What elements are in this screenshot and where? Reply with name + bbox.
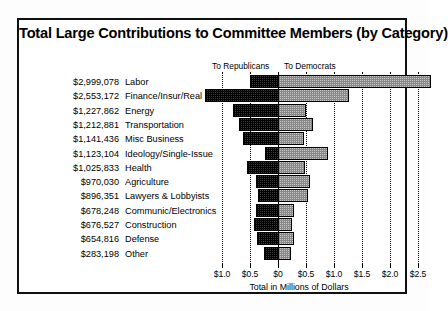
bar-row bbox=[209, 218, 427, 232]
bar-row bbox=[209, 247, 427, 261]
axis-tick bbox=[250, 264, 251, 268]
category-label-row: $1,025,833Health bbox=[19, 161, 209, 175]
category-name: Defense bbox=[125, 232, 159, 246]
bar-row bbox=[209, 118, 427, 132]
bar-segment-democrats bbox=[278, 89, 349, 102]
category-label-row: $654,816Defense bbox=[19, 232, 209, 246]
category-total-amount: $1,227,862 bbox=[41, 104, 119, 118]
category-name: Health bbox=[125, 161, 152, 175]
bar-segment-republicans bbox=[239, 118, 279, 131]
bar-segment-republicans bbox=[265, 147, 279, 160]
category-total-amount: $970,030 bbox=[41, 175, 119, 189]
category-name: Transportation bbox=[125, 118, 184, 132]
bar-segment-democrats bbox=[278, 247, 291, 260]
category-total-amount: $896,351 bbox=[41, 189, 119, 203]
bar-segment-republicans bbox=[258, 189, 279, 202]
legend-label-democrats: To Democrats bbox=[284, 61, 336, 71]
category-label-row: $2,553,172Finance/Insur/Real Est bbox=[19, 89, 209, 103]
category-label-row: $896,351Lawyers & Lobbyists bbox=[19, 189, 209, 203]
category-name: Ideology/Single-Issue bbox=[125, 147, 213, 161]
axis-tick-label: $2.5 bbox=[398, 269, 438, 279]
bar-segment-republicans bbox=[205, 89, 279, 102]
bar-segment-democrats bbox=[278, 175, 310, 188]
bar-segment-democrats bbox=[278, 204, 294, 217]
bar-row bbox=[209, 147, 427, 161]
bar-segment-democrats bbox=[278, 118, 313, 131]
bar-segment-democrats bbox=[278, 232, 294, 245]
category-total-amount: $1,212,881 bbox=[41, 118, 119, 132]
bar-segment-democrats bbox=[278, 147, 328, 160]
bar-row bbox=[209, 204, 427, 218]
bar-segment-republicans bbox=[243, 132, 279, 145]
bar-row bbox=[209, 104, 427, 118]
bar-segment-republicans bbox=[233, 104, 279, 117]
plot-area bbox=[209, 72, 427, 264]
category-name: Misc Business bbox=[125, 132, 184, 146]
category-label-row: $1,227,862Energy bbox=[19, 104, 209, 118]
axis-tick bbox=[418, 264, 419, 268]
bar-segment-republicans bbox=[256, 175, 279, 188]
bar-segment-republicans bbox=[257, 232, 279, 245]
bar-segment-republicans bbox=[247, 161, 279, 174]
category-name: Construction bbox=[125, 218, 177, 232]
category-total-amount: $283,198 bbox=[41, 247, 119, 261]
legend-label-republicans: To Republicans bbox=[212, 61, 269, 71]
bar-row bbox=[209, 232, 427, 246]
bar-row bbox=[209, 175, 427, 189]
axis-tick bbox=[222, 264, 223, 268]
bar-segment-democrats bbox=[278, 75, 431, 88]
axis-tick bbox=[390, 264, 391, 268]
category-name: Communic/Electronics bbox=[125, 204, 216, 218]
bar-row bbox=[209, 132, 427, 146]
category-label-row: $1,141,436Misc Business bbox=[19, 132, 209, 146]
bar-segment-republicans bbox=[256, 204, 279, 217]
bar-segment-democrats bbox=[278, 218, 292, 231]
category-name: Lawyers & Lobbyists bbox=[125, 189, 209, 203]
category-name: Agriculture bbox=[125, 175, 169, 189]
category-label-row: $970,030Agriculture bbox=[19, 175, 209, 189]
chart-frame: Total Large Contributions to Committee M… bbox=[17, 18, 407, 294]
category-label-row: $1,212,881Transportation bbox=[19, 118, 209, 132]
category-total-amount: $2,999,078 bbox=[41, 75, 119, 89]
bar-row bbox=[209, 189, 427, 203]
category-label-row: $283,198Other bbox=[19, 247, 209, 261]
category-total-amount: $678,248 bbox=[41, 204, 119, 218]
category-total-amount: $676,527 bbox=[41, 218, 119, 232]
bar-row bbox=[209, 89, 427, 103]
category-total-amount: $1,141,436 bbox=[41, 132, 119, 146]
chart-title: Total Large Contributions to Committee M… bbox=[19, 25, 409, 41]
category-label-row: $2,999,078Labor bbox=[19, 75, 209, 89]
category-total-amount: $654,816 bbox=[41, 232, 119, 246]
category-name: Energy bbox=[125, 104, 154, 118]
bar-segment-republicans bbox=[250, 75, 279, 88]
axis-tick bbox=[334, 264, 335, 268]
bar-segment-republicans bbox=[264, 247, 279, 260]
category-name: Other bbox=[125, 247, 148, 261]
bar-segment-democrats bbox=[278, 132, 304, 145]
axis-tick bbox=[362, 264, 363, 268]
category-total-amount: $1,123,104 bbox=[41, 147, 119, 161]
bar-segment-democrats bbox=[278, 104, 306, 117]
category-total-amount: $1,025,833 bbox=[41, 161, 119, 175]
axis-tick bbox=[278, 264, 279, 268]
category-name: Finance/Insur/Real Est bbox=[125, 89, 218, 103]
bar-segment-republicans bbox=[254, 218, 279, 231]
category-label-row: $676,527Construction bbox=[19, 218, 209, 232]
bar-row bbox=[209, 75, 427, 89]
category-label-row: $1,123,104Ideology/Single-Issue bbox=[19, 147, 209, 161]
bar-row bbox=[209, 161, 427, 175]
category-label-row: $678,248Communic/Electronics bbox=[19, 204, 209, 218]
x-axis-label: Total in Millions of Dollars bbox=[169, 282, 429, 292]
bar-segment-democrats bbox=[278, 161, 305, 174]
axis-tick bbox=[306, 264, 307, 268]
category-name: Labor bbox=[125, 75, 149, 89]
category-total-amount: $2,553,172 bbox=[41, 89, 119, 103]
bar-segment-democrats bbox=[278, 189, 308, 202]
